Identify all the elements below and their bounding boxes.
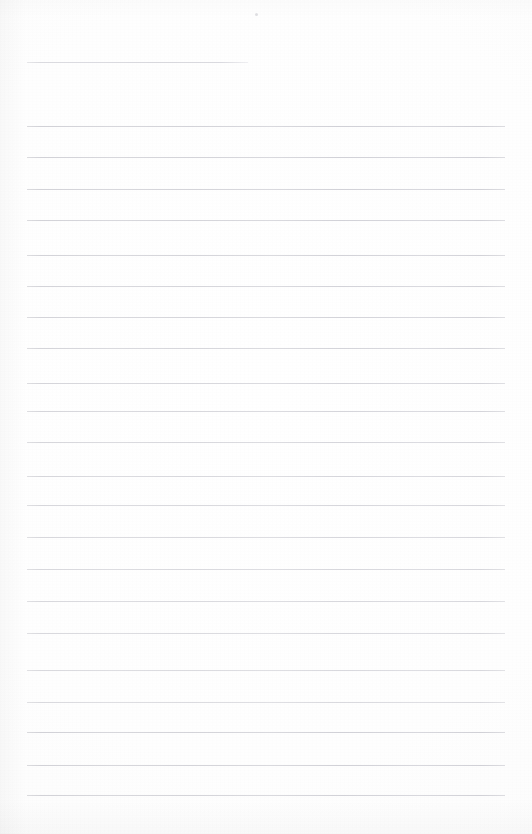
page-edge-shading-left: [0, 0, 26, 834]
ruled-line[interactable]: [27, 157, 505, 158]
page-edge-shading-bottom: [0, 800, 532, 834]
ruled-line[interactable]: [27, 189, 505, 190]
ruled-line[interactable]: [27, 601, 505, 602]
ruled-line[interactable]: [27, 702, 505, 703]
ruled-line[interactable]: [27, 505, 505, 506]
ruled-line[interactable]: [27, 411, 505, 412]
ruled-line[interactable]: [27, 255, 505, 256]
ruled-line[interactable]: [27, 442, 505, 443]
ruled-line[interactable]: [27, 286, 505, 287]
ruled-line[interactable]: [27, 732, 505, 733]
ruled-line[interactable]: [27, 317, 505, 318]
page-edge-shading-top: [0, 0, 532, 18]
ruled-line[interactable]: [27, 670, 505, 671]
ruled-line[interactable]: [27, 795, 505, 796]
ruled-line[interactable]: [27, 569, 505, 570]
ruled-line[interactable]: [27, 383, 505, 384]
header-rule: [27, 62, 248, 63]
scan-speck-icon: [255, 13, 258, 16]
ruled-line[interactable]: [27, 348, 505, 349]
ruled-line[interactable]: [27, 126, 505, 127]
ruled-line[interactable]: [27, 633, 505, 634]
ruled-line[interactable]: [27, 476, 505, 477]
ruled-line[interactable]: [27, 765, 505, 766]
notepad-page: [0, 0, 532, 834]
ruled-line[interactable]: [27, 220, 505, 221]
ruled-line[interactable]: [27, 537, 505, 538]
